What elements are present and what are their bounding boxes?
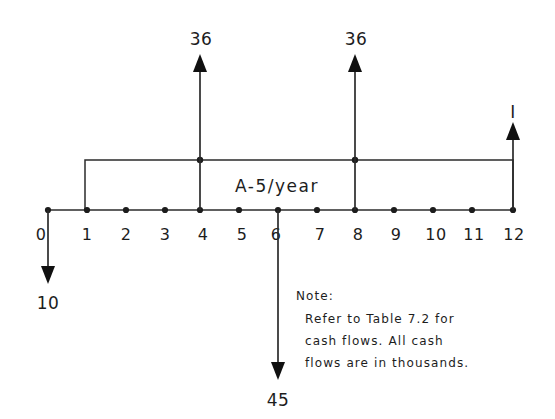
tick-label-10: 10 bbox=[425, 225, 446, 244]
cash-flow-value-period-6: 45 bbox=[267, 390, 290, 410]
tick-label-7: 7 bbox=[315, 225, 326, 244]
arrow-head-up-period-12 bbox=[506, 122, 520, 140]
tick-dot-10 bbox=[430, 207, 436, 213]
note-line-2: cash flows. All cash bbox=[305, 334, 444, 348]
tick-dot-2 bbox=[123, 207, 129, 213]
arrow-head-up-period-4 bbox=[193, 54, 207, 72]
tick-label-12: 12 bbox=[503, 225, 524, 244]
tick-label-2: 2 bbox=[121, 225, 132, 244]
uniform-series-label: A-5/year bbox=[235, 176, 319, 196]
note-title: Note: bbox=[296, 289, 334, 303]
timeline-axis bbox=[45, 207, 516, 213]
cash-flow-arrow-period-12: I bbox=[506, 102, 520, 210]
cash-flow-diagram: A-5/year 0 1 2 3 4 5 6 7 bbox=[0, 0, 555, 419]
arrow-head-down-period-6 bbox=[271, 362, 285, 380]
arrow-head-down-period-0 bbox=[41, 266, 55, 284]
cash-flow-value-period-12: I bbox=[510, 102, 516, 122]
cash-flow-value-period-0: 10 bbox=[37, 293, 60, 313]
note-annotation: Note: Refer to Table 7.2 for cash flows.… bbox=[296, 289, 469, 370]
tick-label-3: 3 bbox=[160, 225, 171, 244]
arrow-head-up-period-8 bbox=[348, 54, 362, 72]
tick-label-8: 8 bbox=[353, 225, 364, 244]
cash-flow-value-period-8: 36 bbox=[345, 29, 368, 49]
note-line-1: Refer to Table 7.2 for bbox=[305, 312, 455, 326]
tick-label-4: 4 bbox=[198, 225, 209, 244]
tick-label-1: 1 bbox=[82, 225, 93, 244]
tick-label-6: 6 bbox=[271, 225, 282, 244]
cash-flow-diagram-canvas: A-5/year 0 1 2 3 4 5 6 7 bbox=[0, 0, 555, 419]
tick-dot-9 bbox=[391, 207, 397, 213]
tick-dot-3 bbox=[162, 207, 168, 213]
cash-flow-value-period-4: 36 bbox=[190, 29, 213, 49]
cash-flow-arrow-period-4: 36 bbox=[190, 29, 213, 210]
axis-tick-labels: 0 1 2 3 4 5 6 7 8 9 10 11 12 bbox=[36, 225, 525, 244]
tick-label-5: 5 bbox=[237, 225, 248, 244]
tick-label-0: 0 bbox=[36, 225, 47, 244]
note-line-3: flows are in thousands. bbox=[305, 356, 469, 370]
tick-dot-7 bbox=[314, 207, 320, 213]
tick-dot-5 bbox=[236, 207, 242, 213]
tick-dot-1 bbox=[84, 207, 90, 213]
tick-label-11: 11 bbox=[463, 225, 484, 244]
tick-label-9: 9 bbox=[391, 225, 402, 244]
cash-flow-arrow-period-8: 36 bbox=[345, 29, 368, 210]
tick-dot-11 bbox=[469, 207, 475, 213]
